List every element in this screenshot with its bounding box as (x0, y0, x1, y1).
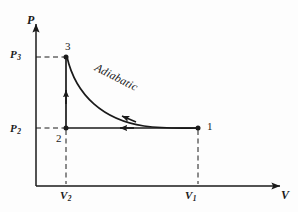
ytick-label-p2: P2 (10, 123, 21, 136)
xtick-v2-subscript: 2 (67, 194, 71, 203)
xtick-label-v1: V1 (185, 190, 196, 203)
volume-axis-label: V (281, 189, 289, 201)
ytick-label-p3: P3 (10, 49, 21, 62)
state-point-label-1: 1 (207, 121, 213, 132)
state-point-3 (64, 55, 69, 60)
diagram-canvas (0, 0, 298, 212)
pressure-axis-label: P (27, 14, 34, 26)
state-point-label-3: 3 (65, 41, 71, 52)
state-point-1 (196, 126, 201, 131)
ytick-p3-subscript: 3 (17, 53, 21, 62)
ytick-p2-base: P (10, 122, 17, 134)
pv-diagram-figure: P V P3 P2 V2 V1 3 2 1 Adiabatic (0, 0, 298, 212)
state-point-label-2: 2 (56, 133, 62, 144)
ytick-p2-subscript: 2 (17, 127, 21, 136)
ytick-p3-base: P (10, 48, 17, 60)
xtick-label-v2: V2 (60, 190, 71, 203)
state-point-2 (64, 126, 69, 131)
xtick-v1-subscript: 1 (192, 194, 196, 203)
